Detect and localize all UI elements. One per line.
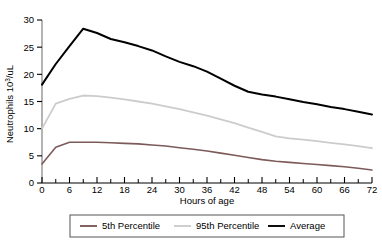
x-tick-label: 48 (257, 184, 268, 195)
y-axis-title-tail: /uL (4, 65, 15, 78)
x-tick-label: 36 (202, 184, 213, 195)
x-axis-title: Hours of age (180, 195, 234, 206)
legend-label-2: Average (290, 220, 325, 231)
y-tick-label: 25 (23, 42, 34, 53)
legend-label-0: 5th Percentile (102, 220, 160, 231)
neutrophil-reference-chart: Neutrophils 103/uL 051015202530 06121824… (0, 0, 382, 241)
x-tick-label: 18 (119, 184, 130, 195)
x-tick-label: 0 (39, 184, 44, 195)
x-tick-label: 72 (367, 184, 378, 195)
y-axis-title-base: Neutrophils 10 (4, 82, 15, 143)
x-tick-label: 54 (284, 184, 295, 195)
x-tick-label: 12 (92, 184, 103, 195)
chart-svg: Neutrophils 103/uL 051015202530 06121824… (0, 0, 382, 241)
x-tick-label: 42 (229, 184, 240, 195)
y-axis-title: Neutrophils 103/uL (4, 65, 15, 143)
svg-text:Neutrophils 103/uL: Neutrophils 103/uL (4, 65, 15, 143)
y-tick-label: 0 (29, 177, 34, 188)
x-tick-label: 60 (312, 184, 323, 195)
x-tick-label: 6 (67, 184, 72, 195)
legend-label-1: 95th Percentile (196, 220, 259, 231)
chart-legend: 5th Percentile95th PercentileAverage (70, 215, 344, 237)
y-tick-label: 20 (23, 69, 34, 80)
y-tick-label: 30 (23, 14, 34, 25)
x-tick-label: 66 (339, 184, 350, 195)
y-tick-label: 10 (23, 123, 34, 134)
y-tick-label: 5 (29, 150, 34, 161)
y-tick-label: 15 (23, 96, 34, 107)
x-tick-label: 24 (147, 184, 158, 195)
x-tick-label: 30 (174, 184, 185, 195)
